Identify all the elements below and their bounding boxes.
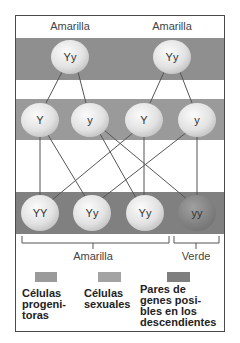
legend-line: sexuales xyxy=(84,299,130,310)
offspring-node-3: Yy xyxy=(126,195,164,231)
svg-text:Yy: Yy xyxy=(64,51,77,63)
svg-text:YY: YY xyxy=(33,207,48,219)
parent-label-1: Amarilla xyxy=(40,20,100,32)
svg-text:y: y xyxy=(194,114,200,126)
svg-text:y: y xyxy=(87,114,93,126)
parent-label-2: Amarilla xyxy=(142,20,202,32)
gamete-node-2: y xyxy=(71,103,109,137)
legend-text-sex-cells: Células sexuales xyxy=(84,288,130,310)
legend-line: descendientes xyxy=(140,317,216,328)
svg-text:Y: Y xyxy=(140,114,148,126)
legend-text-parent-cells: Células progeni- toras xyxy=(22,288,66,321)
offspring-node-2: Yy xyxy=(73,195,111,231)
gamete-node-4: y xyxy=(178,103,216,137)
legend-swatch-sex-cells xyxy=(98,272,121,282)
legend-swatch-offspring-pairs xyxy=(167,272,190,282)
offspring-node-1: YY xyxy=(21,195,59,231)
bracket-verde xyxy=(174,236,219,249)
gamete-node-3: Y xyxy=(125,103,163,137)
parent-node-2: Yy xyxy=(153,40,191,74)
bracket-amarilla xyxy=(22,236,169,249)
svg-text:yy: yy xyxy=(192,207,204,219)
legend-swatch-parent-cells xyxy=(35,272,57,282)
svg-text:Yy: Yy xyxy=(166,51,179,63)
group-label-amarilla: Amarilla xyxy=(63,250,123,262)
svg-text:Yy: Yy xyxy=(139,207,152,219)
group-label-verde: Verde xyxy=(171,250,221,262)
svg-text:Yy: Yy xyxy=(86,207,99,219)
offspring-node-4: yy xyxy=(178,195,216,231)
legend-text-offspring-pairs: Pares de genes posi- bles en los descend… xyxy=(140,284,216,328)
gamete-offspring-lines xyxy=(40,130,197,200)
svg-text:Y: Y xyxy=(36,114,44,126)
legend-line: toras xyxy=(22,310,66,321)
parent-band xyxy=(16,38,224,80)
gamete-node-1: Y xyxy=(21,103,59,137)
parent-node-1: Yy xyxy=(51,40,89,74)
